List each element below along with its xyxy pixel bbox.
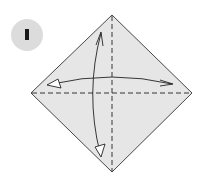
origami-diagram <box>0 0 204 182</box>
paper-square <box>31 15 192 172</box>
